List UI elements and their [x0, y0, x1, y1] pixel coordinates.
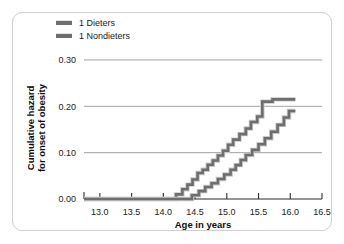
y-tick-label-0.20: 0.20 — [58, 102, 76, 112]
y-tick-label-0.10: 0.10 — [58, 148, 76, 158]
y-axis-tick-labels-group: 0.000.100.200.30 — [58, 55, 84, 204]
y-axis-title-line2: for onset of obesity — [36, 83, 47, 172]
x-tick-label-13.5: 13.5 — [123, 207, 141, 217]
figure-container: 0.000.100.200.30 13.013.514.014.515.015.… — [0, 0, 344, 244]
x-axis-tick-labels-group: 13.013.514.014.515.015.516.016.5 — [91, 207, 331, 217]
series-line-1-dieters — [84, 99, 295, 199]
legend-label-0: 1 Dieters — [79, 18, 116, 28]
legend-label-1: 1 Nondieters — [79, 31, 131, 41]
x-tick-label-14.0: 14.0 — [155, 207, 173, 217]
y-axis-title-line1: Cumulative hazard — [25, 86, 36, 171]
y-tick-label-0.00: 0.00 — [58, 194, 76, 204]
x-tick-label-16.0: 16.0 — [282, 207, 300, 217]
x-tick-label-13.0: 13.0 — [91, 207, 109, 217]
x-tick-label-14.5: 14.5 — [186, 207, 204, 217]
chart-canvas: 0.000.100.200.30 13.013.514.014.515.015.… — [0, 0, 344, 244]
chart-legend: 1 Dieters1 Nondieters — [56, 18, 131, 41]
x-tick-label-16.5: 16.5 — [313, 207, 331, 217]
data-series-group — [84, 99, 295, 199]
x-tick-label-15.5: 15.5 — [250, 207, 268, 217]
gridlines-group — [84, 60, 322, 199]
x-tick-label-15.0: 15.0 — [218, 207, 236, 217]
y-tick-label-0.30: 0.30 — [58, 55, 76, 65]
x-axis-title: Age in years — [175, 219, 232, 230]
